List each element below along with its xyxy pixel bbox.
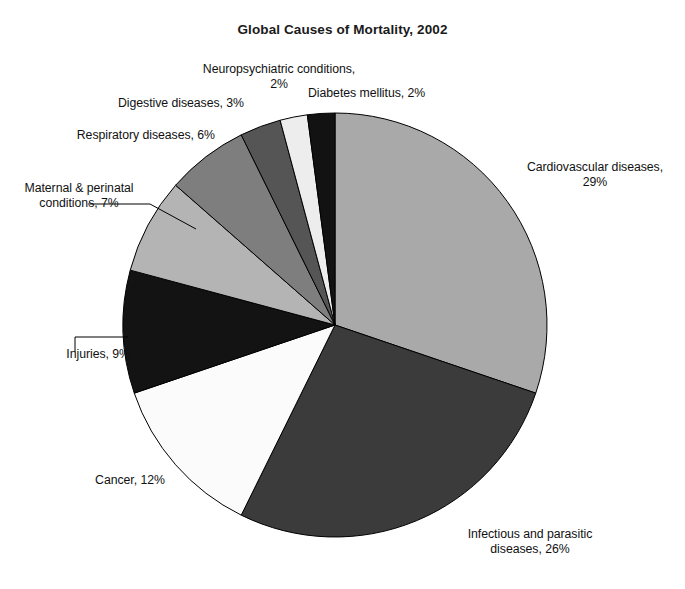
- slice-label-maternal: Maternal & perinatal conditions, 7%: [0, 181, 158, 211]
- slice-label-injuries: Injuries, 9%: [0, 347, 130, 362]
- slice-label-respiratory: Respiratory diseases, 6%: [0, 128, 215, 143]
- slice-label-diabetes: Diabetes mellitus, 2%: [308, 86, 498, 101]
- pie-chart-figure: Global Causes of Mortality, 2002 Neurops…: [0, 0, 685, 589]
- slice-label-cardiovascular: Cardiovascular diseases, 29%: [505, 160, 685, 190]
- slice-label-infectious: Infectious and parasitic diseases, 26%: [435, 527, 625, 557]
- slice-label-cancer: Cancer, 12%: [60, 473, 200, 488]
- slice-label-digestive: Digestive diseases, 3%: [14, 96, 244, 111]
